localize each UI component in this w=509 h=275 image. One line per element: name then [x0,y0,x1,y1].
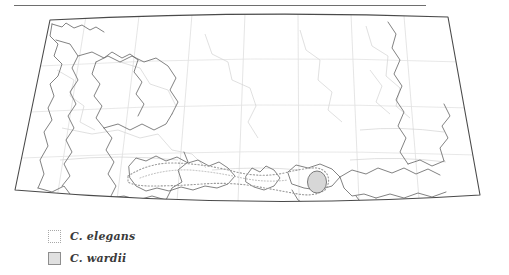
figure-container: C. elegans C. wardii [0,0,509,275]
legend-item-c-wardii: C. wardii [48,248,248,268]
legend: C. elegans C. wardii [48,226,248,270]
dotted-square-swatch-icon [48,230,61,243]
distribution-c-wardii [308,171,327,193]
gray-square-swatch-icon [48,252,61,265]
top-horizontal-rule [14,5,426,6]
legend-label-c-elegans: C. elegans [70,230,135,243]
legend-label-c-wardii: C. wardii [70,252,126,265]
distribution-map [0,10,509,210]
legend-item-c-elegans: C. elegans [48,226,248,246]
map-panel [0,10,509,210]
